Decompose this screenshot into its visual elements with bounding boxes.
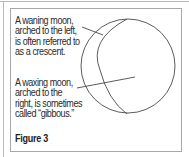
moon-outer-circle [81,19,175,113]
caption-waxing-moon: A waxing moon, arched to the right, is s… [15,77,82,119]
caption-waning-moon: A waning moon, arched to the left, is of… [15,15,80,57]
moon-inner-arc [97,19,127,114]
figure-label: Figure 3 [15,132,48,144]
